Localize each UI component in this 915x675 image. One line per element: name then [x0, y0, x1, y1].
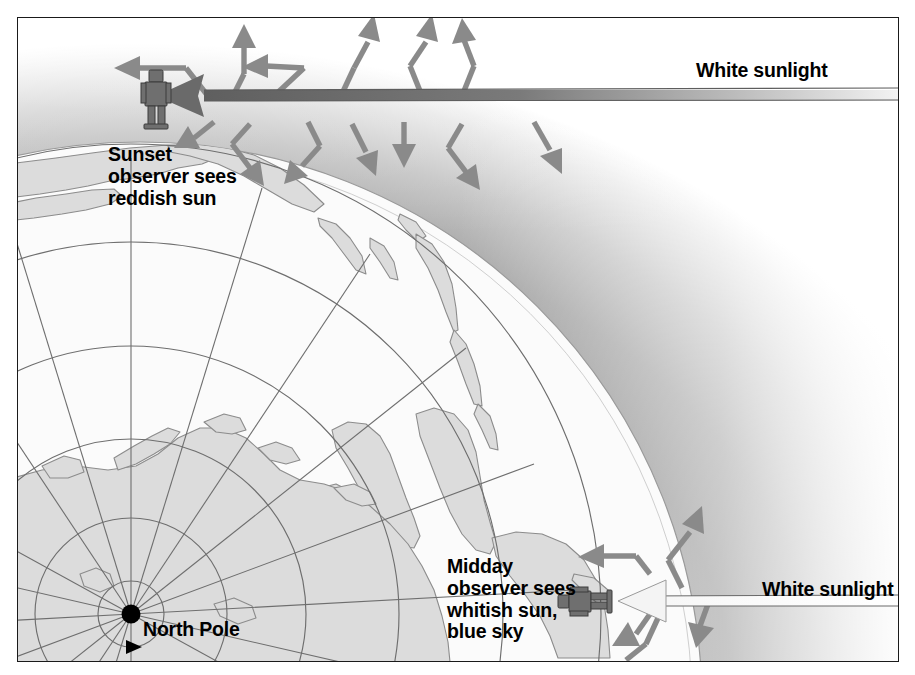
midday-observer-label: Midday observer sees whitish sun, blue s… [447, 556, 576, 643]
white-sunlight-label-bottom: White sunlight [762, 579, 894, 601]
sunset-beam-shaft [204, 90, 898, 101]
sunset-observer-label: Sunset observer sees reddish sun [108, 144, 237, 209]
observer-arm-right [166, 83, 171, 103]
north-pole-dot [122, 605, 141, 624]
white-sunlight-label-top: White sunlight [696, 60, 828, 82]
observer-foot [607, 590, 612, 613]
observer-torso [145, 82, 167, 106]
observer-arm-left [141, 83, 146, 103]
figure-frame: Sunset observer sees reddish sun Midday … [17, 17, 899, 662]
observer-leg-left [591, 602, 609, 609]
observer-leg-right [591, 593, 609, 600]
observer-leg-left [148, 106, 155, 126]
observer-foot [144, 124, 168, 129]
north-pole-label: North Pole [143, 619, 240, 641]
figure-canvas: Sunset observer sees reddish sun Midday … [0, 0, 915, 675]
observer-head [149, 70, 163, 82]
observer-leg-right [158, 106, 165, 126]
